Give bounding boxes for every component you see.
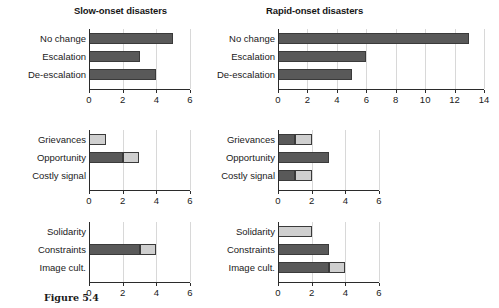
x-axis-tick [345, 283, 346, 286]
figure-5-4: Slow-onset disasters Rapid-onset disaste… [0, 0, 499, 308]
x-axis-tick-label: 4 [331, 287, 359, 298]
figure-caption: Figure 5.4 [44, 292, 99, 303]
x-axis-line [278, 282, 379, 283]
bar-segment [278, 262, 329, 273]
x-axis-tick-label: 2 [298, 287, 326, 298]
chart-rapid-bottom: SolidarityConstraintsImage cult.0246 [0, 0, 499, 308]
x-axis-tick [278, 283, 279, 286]
category-label: Constraints [0, 245, 275, 255]
x-axis-tick [379, 283, 380, 286]
gridline [345, 222, 346, 282]
bar-segment [278, 226, 312, 237]
bar-segment [278, 244, 329, 255]
x-axis-tick [312, 283, 313, 286]
category-label: Solidarity [0, 227, 275, 237]
x-axis-tick-label: 6 [365, 287, 393, 298]
x-axis-tick-label: 0 [264, 287, 292, 298]
category-label: Image cult. [0, 263, 275, 273]
y-axis-line [278, 222, 279, 282]
bar-segment [329, 262, 346, 273]
gridline [379, 222, 380, 282]
